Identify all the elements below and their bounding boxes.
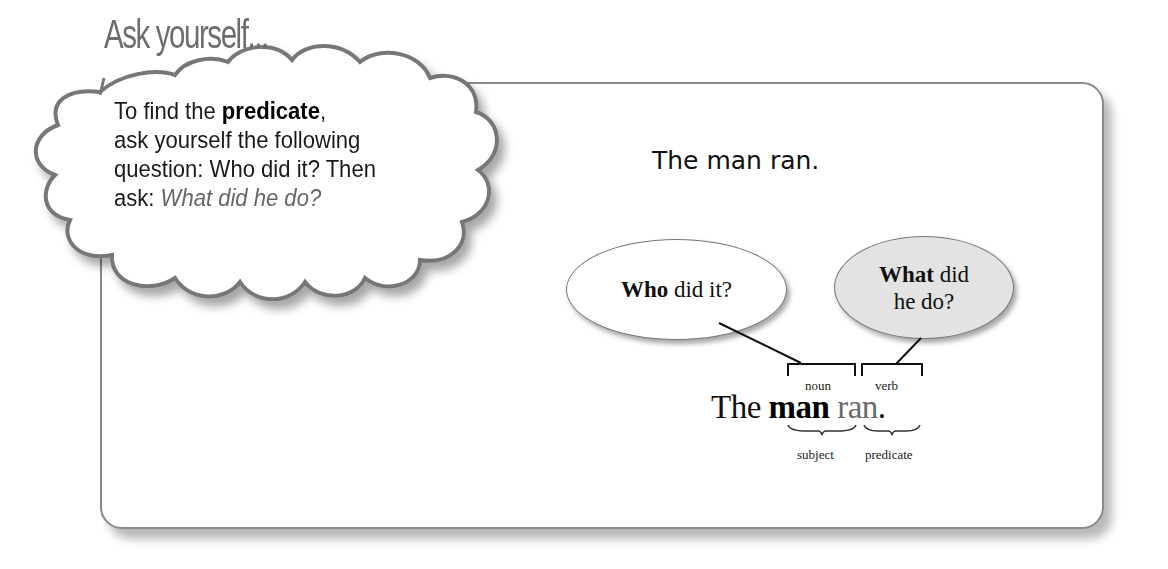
connector-lines — [0, 0, 1168, 569]
subject-label: subject — [797, 447, 834, 463]
annotated-sentence: The man ran. — [711, 389, 886, 426]
word-subject: man — [769, 389, 830, 425]
word-the: The — [711, 389, 769, 425]
word-predicate: ran — [837, 389, 878, 425]
predicate-label: predicate — [865, 447, 913, 463]
space — [829, 389, 837, 425]
period: . — [878, 389, 886, 425]
